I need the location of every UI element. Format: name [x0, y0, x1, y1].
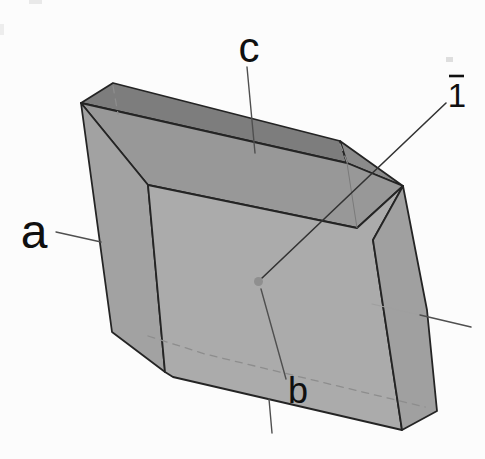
- inversion-center-dot: [254, 277, 263, 286]
- b-axis-label: b: [288, 370, 308, 411]
- scan-artifact: [0, 24, 4, 35]
- a-axis-label: a: [21, 205, 48, 258]
- c-axis-label: c: [239, 24, 260, 71]
- scan-artifact: [29, 0, 42, 4]
- scan-artifact: [446, 57, 453, 62]
- a-axis-left-segment: [56, 232, 101, 242]
- crystal-front-face: [148, 185, 403, 430]
- inversion-symbol-label: 1: [448, 77, 466, 114]
- c-axis-lower-segment: [269, 399, 272, 433]
- crystal-diagram: a c b 1: [0, 0, 485, 459]
